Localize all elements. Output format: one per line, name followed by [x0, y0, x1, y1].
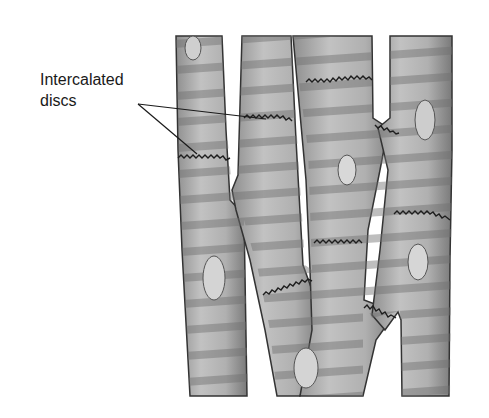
- intercalated-discs-label-line1: Intercalated: [40, 70, 124, 90]
- cardiac-muscle-diagram: Intercalated discs: [0, 0, 489, 418]
- nucleus: [338, 155, 356, 185]
- nucleus: [185, 36, 201, 60]
- nucleus: [203, 256, 225, 300]
- striations: [170, 30, 460, 400]
- nucleus: [415, 100, 435, 140]
- nucleus: [408, 244, 428, 280]
- intercalated-discs-label-line2: discs: [40, 91, 76, 111]
- nucleus: [294, 348, 318, 388]
- cardiac-fibers-illustration: [0, 0, 489, 418]
